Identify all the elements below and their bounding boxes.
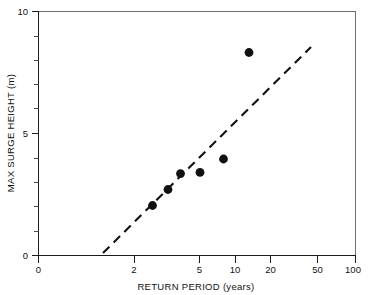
x-tick-label-50: 50 [312,264,323,275]
y-tick-label-5: 5 [23,128,28,139]
x-tick-label-20: 20 [265,264,276,275]
data-point [219,155,228,164]
data-point [176,169,185,178]
y-tick-label-0: 0 [23,250,28,261]
data-point [148,201,157,210]
data-point [196,168,205,177]
data-point [164,185,173,194]
x-tick-label-2: 2 [131,264,136,275]
chart-page: 10 5 0 0 2 5 10 20 50 100 RETURN PERIOD … [0,0,371,295]
surge-height-scatter-chart: 10 5 0 0 2 5 10 20 50 100 RETURN PERIOD … [0,0,371,295]
y-tick-label-10: 10 [17,6,28,17]
x-tick-label-5: 5 [197,264,202,275]
y-axis-title: MAX SURGE HEIGHT (m) [5,74,16,192]
x-tick-label-100: 100 [345,264,361,275]
x-tick-label-10: 10 [230,264,241,275]
chart-background [0,0,371,295]
x-tick-label-0: 0 [36,264,41,275]
data-point [245,48,254,57]
x-axis-title: RETURN PERIOD (years) [137,281,254,292]
